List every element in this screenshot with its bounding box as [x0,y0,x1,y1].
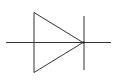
junction-dot [83,42,85,44]
diode-symbol [0,0,127,80]
